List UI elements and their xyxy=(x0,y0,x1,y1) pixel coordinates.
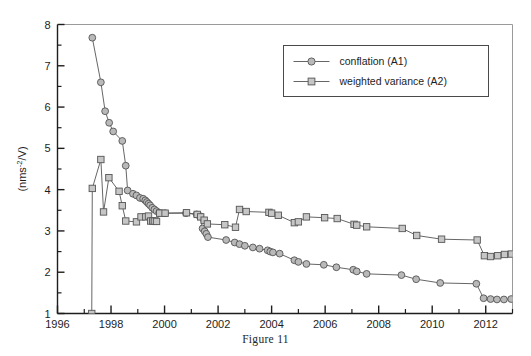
y-tick-label: 4 xyxy=(44,184,50,196)
y-tick-label: 2 xyxy=(44,266,50,278)
data-point-marker xyxy=(204,221,210,227)
x-tick-label: 2004 xyxy=(259,318,283,330)
data-point-marker xyxy=(399,225,405,231)
data-point-marker xyxy=(320,261,327,268)
data-point-marker xyxy=(89,310,95,316)
figure-caption: Figure 11 xyxy=(0,333,531,345)
data-point-marker xyxy=(501,296,508,303)
data-point-marker xyxy=(110,128,117,135)
data-point-marker xyxy=(89,34,96,41)
x-tick-label: 2010 xyxy=(420,318,444,330)
data-point-marker xyxy=(243,208,249,214)
data-point-marker xyxy=(487,296,494,303)
data-point-marker xyxy=(106,174,112,180)
legend-label: conflation (A1) xyxy=(340,55,408,67)
data-point-marker xyxy=(508,296,515,303)
data-point-marker xyxy=(123,218,129,224)
data-point-marker xyxy=(334,215,340,221)
x-tick-label: 1996 xyxy=(45,318,69,330)
data-point-marker xyxy=(353,268,360,275)
series-weighted-variance xyxy=(89,156,515,316)
y-tick-label: 6 xyxy=(44,101,50,113)
data-point-marker xyxy=(268,210,274,216)
legend: conflation (A1)weighted variance (A2) xyxy=(284,46,489,97)
data-point-marker xyxy=(333,264,340,271)
data-point-marker xyxy=(508,251,514,257)
legend-circle-marker-icon xyxy=(308,58,315,65)
data-point-marker xyxy=(481,253,487,259)
data-point-marker xyxy=(119,138,126,145)
y-tick-label: 8 xyxy=(44,19,50,31)
x-tick-label: 2000 xyxy=(152,318,176,330)
y-axis-ticks: 12345678 xyxy=(44,19,64,320)
data-point-marker xyxy=(363,270,370,277)
data-point-marker xyxy=(501,251,507,257)
y-tick-label: 5 xyxy=(44,142,50,154)
data-point-marker xyxy=(303,214,309,220)
data-point-marker xyxy=(122,162,129,169)
data-point-marker xyxy=(473,280,480,287)
data-point-marker xyxy=(116,188,122,194)
data-point-marker xyxy=(354,222,360,228)
data-point-marker xyxy=(494,296,501,303)
legend-square-marker-icon xyxy=(308,78,315,85)
data-point-marker xyxy=(276,250,283,257)
data-point-marker xyxy=(275,212,281,218)
x-tick-label: 2006 xyxy=(313,318,337,330)
x-tick-label: 2002 xyxy=(206,318,230,330)
x-tick-label: 2012 xyxy=(473,318,497,330)
data-point-marker xyxy=(249,244,256,251)
data-point-marker xyxy=(256,245,263,252)
data-point-marker xyxy=(106,119,113,126)
data-point-marker xyxy=(232,224,238,230)
legend-label: weighted variance (A2) xyxy=(339,75,447,87)
data-point-marker xyxy=(98,156,104,162)
y-tick-label: 3 xyxy=(44,225,50,237)
data-point-marker xyxy=(295,258,302,265)
data-point-marker xyxy=(162,210,168,216)
data-point-marker xyxy=(97,79,104,86)
data-point-marker xyxy=(480,295,487,302)
data-point-marker xyxy=(119,203,125,209)
data-point-marker xyxy=(223,237,230,244)
data-point-marker xyxy=(487,253,493,259)
data-point-marker xyxy=(363,224,369,230)
data-point-marker xyxy=(303,261,310,268)
data-point-marker xyxy=(413,232,419,238)
x-tick-label: 2008 xyxy=(366,318,390,330)
data-point-marker xyxy=(495,253,501,259)
data-point-marker xyxy=(102,108,109,115)
data-point-marker xyxy=(474,237,480,243)
data-point-marker xyxy=(413,276,420,283)
data-point-marker xyxy=(153,218,159,224)
data-point-marker xyxy=(270,249,277,256)
data-point-marker xyxy=(241,242,248,249)
data-point-marker xyxy=(438,236,444,242)
x-axis-ticks: 199619982000200220042006200820102012 xyxy=(45,306,512,330)
y-tick-label: 7 xyxy=(44,60,50,72)
data-point-marker xyxy=(183,210,189,216)
figure-container: 1234567819961998200020022004200620082010… xyxy=(0,0,531,356)
x-tick-label: 1998 xyxy=(99,318,123,330)
series-line xyxy=(92,160,512,314)
data-point-marker xyxy=(437,280,444,287)
data-point-marker xyxy=(321,215,327,221)
svg-text:(nms-2/V): (nms-2/V) xyxy=(15,146,29,191)
data-point-marker xyxy=(236,206,242,212)
data-point-marker xyxy=(295,219,301,225)
chart-canvas: 1234567819961998200020022004200620082010… xyxy=(0,0,531,356)
data-point-marker xyxy=(398,272,405,279)
legend-box xyxy=(284,46,489,97)
data-point-marker xyxy=(205,234,212,241)
data-point-marker xyxy=(100,209,106,215)
data-point-marker xyxy=(89,185,95,191)
y-axis-label: (nms-2/V) xyxy=(15,146,29,191)
data-point-marker xyxy=(222,222,228,228)
